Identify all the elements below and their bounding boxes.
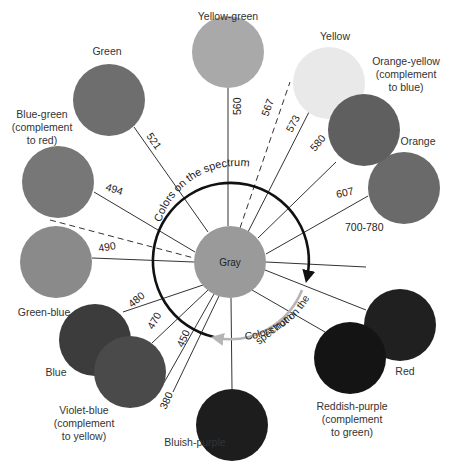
line-red [265,270,366,310]
yellow-green-swatch [192,16,264,88]
wl-480: 480 [126,289,147,310]
blue-green-label: (complement [12,121,73,133]
line-490 [92,258,194,262]
wl-607: 607 [335,185,355,200]
color-circle-diagram: Gray Colors on the spectrum Colors not o… [0,0,450,462]
violet-blue-label: Violet-blue [59,404,109,416]
blue-green-label: Blue-green [16,108,68,120]
orange-yellow-label: (complement [376,68,437,80]
green-blue-label: Green-blue [18,306,71,318]
reddish-purple-label: to green) [331,426,373,438]
line-580 [258,162,336,238]
green-swatch [73,64,145,136]
wl-521: 521 [144,130,164,151]
orange-yellow-swatch [328,94,400,166]
bluish-purple-label: Bluish-purple [164,436,225,448]
wl-470: 470 [144,310,163,331]
gray-label: Gray [219,257,241,268]
yellow-label: Yellow [320,30,350,42]
red-label: Red [395,365,414,377]
blue-green-label: to red) [27,134,57,146]
green-label: Green [92,45,121,57]
wl-450: 450 [174,328,192,349]
violet-blue-swatch [94,336,166,408]
line-573 [248,112,309,232]
line-521 [134,127,208,232]
violet-blue-label: to yellow) [62,430,106,442]
wl-580: 580 [307,132,328,153]
green-blue-swatch [20,226,92,298]
wl-494: 494 [104,180,125,197]
reddish-purple-swatch [314,322,386,394]
wl-380: 380 [157,390,175,411]
bluish-purple-swatch [196,389,268,461]
blue-green-swatch [22,146,94,218]
orange-yellow-label: to blue) [388,81,423,93]
violet-blue-label: (complement [54,417,115,429]
blue-label: Blue [45,366,66,378]
reddish-purple-label: (complement [322,413,383,425]
orange-label: Orange [400,135,435,147]
line-700-780 [266,262,366,267]
orange-yellow-label: Orange-yellow [372,55,440,67]
reddish-purple-label: Reddish-purple [316,400,387,412]
wl-560: 560 [231,97,243,115]
wl-700-780: 700-780 [345,221,384,233]
line-bluish-purple [231,298,232,389]
wl-490: 490 [97,239,116,254]
wl-567: 567 [259,97,276,118]
yellow-green-label: Yellow-green [198,10,258,22]
